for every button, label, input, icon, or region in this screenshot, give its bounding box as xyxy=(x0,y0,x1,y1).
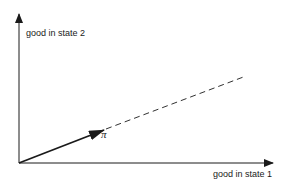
x-axis-label: good in state 1 xyxy=(213,169,272,179)
dashed-extension xyxy=(106,76,246,129)
vector-arrow xyxy=(19,130,104,163)
y-axis-label: good in state 2 xyxy=(26,28,85,38)
vector-label: π xyxy=(101,128,107,140)
